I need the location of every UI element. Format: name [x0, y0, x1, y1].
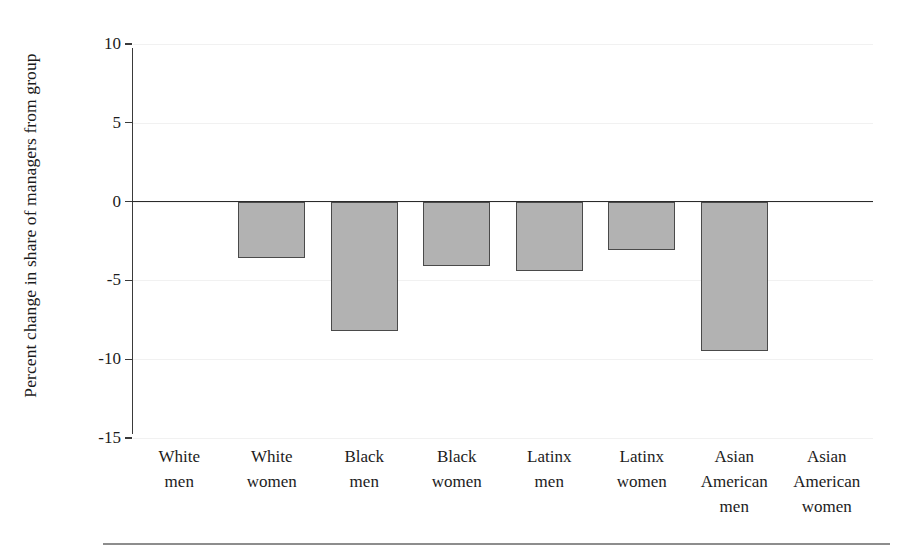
- x-axis-tick-label-line: American: [688, 469, 781, 494]
- plot-area: 1050-5-10-15: [133, 44, 873, 438]
- x-axis-tick-label-line: Asian: [688, 444, 781, 469]
- x-axis-tick-label: AsianAmericanwomen: [781, 444, 874, 519]
- y-axis-title-text: Percent change in share of managers from…: [20, 53, 41, 397]
- x-axis-tick-labels: WhitemenWhitewomenBlackmenBlackwomenLati…: [133, 444, 873, 534]
- y-axis-tick-label: 10: [104, 34, 121, 54]
- y-axis-tickmark: [125, 359, 132, 360]
- bar-asian-american-men: [701, 202, 768, 352]
- y-axis-tickmark: [125, 437, 132, 438]
- y-axis-tickmark: [125, 201, 132, 202]
- bar-black-women: [423, 202, 490, 267]
- x-axis-tick-label: Blackwomen: [411, 444, 504, 494]
- x-axis-tick-label-line: women: [226, 469, 319, 494]
- gridline: [133, 123, 873, 124]
- x-axis-tick-label-line: American: [781, 469, 874, 494]
- bar-latinx-women: [608, 202, 675, 251]
- x-axis-tick-label-line: Latinx: [596, 444, 689, 469]
- x-axis-tick-label: Whitemen: [133, 444, 226, 494]
- x-axis-tick-label-line: men: [318, 469, 411, 494]
- bar-white-women: [238, 202, 305, 259]
- bar-black-men: [331, 202, 398, 331]
- x-axis-tick-label-line: Latinx: [503, 444, 596, 469]
- y-axis-tick-label: -10: [98, 349, 121, 369]
- y-axis-title: Percent change in share of managers from…: [0, 0, 60, 450]
- x-axis-tick-label-line: Asian: [781, 444, 874, 469]
- y-axis-tickmark: [125, 280, 132, 281]
- x-axis-tick-label-line: White: [226, 444, 319, 469]
- gridline: [133, 359, 873, 360]
- gridline: [133, 438, 873, 439]
- y-axis-tickmark: [125, 43, 132, 44]
- x-axis-tick-label-line: Black: [318, 444, 411, 469]
- x-axis-tick-label-line: men: [133, 469, 226, 494]
- x-axis-tick-label: Latinxmen: [503, 444, 596, 494]
- bar-latinx-men: [516, 202, 583, 271]
- footer-rule: [103, 543, 890, 545]
- x-axis-tick-label: Blackmen: [318, 444, 411, 494]
- chart-figure: Percent change in share of managers from…: [0, 0, 897, 550]
- x-axis-tick-label-line: men: [688, 494, 781, 519]
- y-axis-tick-label: 5: [113, 113, 122, 133]
- x-axis-tick-label-line: women: [781, 494, 874, 519]
- gridline: [133, 44, 873, 45]
- y-axis-tick-label: 0: [113, 192, 122, 212]
- x-axis-tick-label-line: White: [133, 444, 226, 469]
- y-axis-tick-label: -5: [107, 270, 121, 290]
- x-axis-tick-label: Latinxwomen: [596, 444, 689, 494]
- y-axis-spine: [132, 48, 133, 434]
- x-axis-tick-label-line: Black: [411, 444, 504, 469]
- y-axis-tickmark: [125, 122, 132, 123]
- x-axis-tick-label: Whitewomen: [226, 444, 319, 494]
- x-axis-tick-label-line: women: [596, 469, 689, 494]
- x-axis-tick-label-line: women: [411, 469, 504, 494]
- x-axis-tick-label-line: men: [503, 469, 596, 494]
- x-axis-tick-label: AsianAmericanmen: [688, 444, 781, 519]
- y-axis-tick-label: -15: [98, 428, 121, 448]
